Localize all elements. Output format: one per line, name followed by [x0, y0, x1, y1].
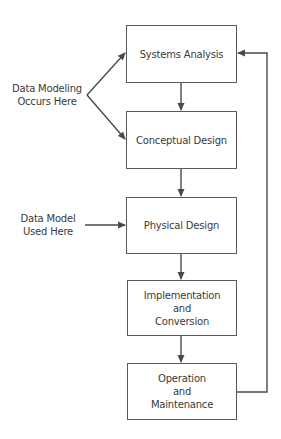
- feedback-loop-arrow: [236, 53, 267, 392]
- step-conceptual-design: Conceptual Design: [126, 111, 237, 169]
- step-implementation-conversion: Implementation and Conversion: [127, 280, 237, 336]
- annotation-line: Data Modeling: [8, 82, 86, 95]
- step-label-line: Implementation: [144, 289, 221, 302]
- annotation-data-model-used: Data Model Used Here: [14, 212, 82, 238]
- annotation-line: Used Here: [14, 225, 82, 238]
- step-label-line: Conversion: [155, 315, 209, 328]
- arrow-modeling-to-conceptual: [87, 95, 125, 139]
- step-physical-design: Physical Design: [126, 197, 237, 254]
- step-label-line: Operation: [158, 372, 206, 385]
- annotation-data-modeling: Data Modeling Occurs Here: [8, 82, 86, 108]
- step-label-line: Maintenance: [151, 398, 213, 411]
- step-label: Physical Design: [144, 219, 219, 232]
- step-operation-maintenance: Operation and Maintenance: [127, 363, 237, 420]
- annotation-line: Occurs Here: [8, 95, 86, 108]
- step-label: Systems Analysis: [140, 48, 224, 61]
- step-label-line: and: [173, 302, 191, 315]
- arrow-modeling-to-analysis: [87, 53, 125, 95]
- step-label: Conceptual Design: [136, 134, 227, 147]
- step-systems-analysis: Systems Analysis: [126, 25, 237, 83]
- annotation-line: Data Model: [14, 212, 82, 225]
- step-label-line: and: [173, 385, 191, 398]
